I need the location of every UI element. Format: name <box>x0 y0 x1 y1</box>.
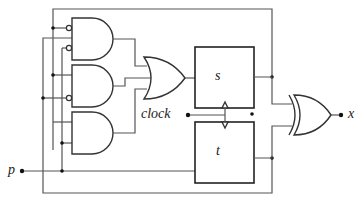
flip-flop-t <box>195 122 254 183</box>
and-gate-2 <box>66 65 113 107</box>
clock-wire <box>186 108 225 122</box>
x-output-label: x <box>348 107 354 121</box>
circuit-svg <box>0 0 363 201</box>
flip-flop-s <box>195 47 254 108</box>
ff-to-xor-wires <box>254 77 292 158</box>
p-input-label: p <box>8 163 15 177</box>
clock-input-label: clock <box>141 107 171 121</box>
circuit-diagram: s t clock p x <box>0 0 363 201</box>
and-gate-3 <box>72 112 113 154</box>
inverter-bubble <box>66 95 71 100</box>
flip-flop-t-label: t <box>216 144 220 158</box>
and-gate-1 <box>66 18 113 60</box>
xor-gate <box>289 95 331 135</box>
inverter-bubble <box>66 25 71 30</box>
flip-flop-s-label: s <box>215 69 220 83</box>
inverter-bubble <box>66 45 71 50</box>
